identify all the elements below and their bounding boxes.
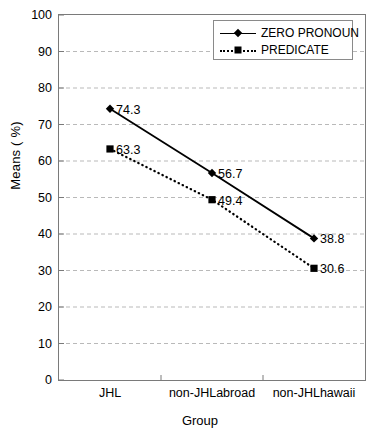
plot-canvas [59,15,365,380]
square-marker-icon [235,46,242,53]
x-axis-title: Group [182,413,218,428]
plot-area [58,14,366,381]
data-label: 74.3 [116,103,140,117]
y-tick-label: 90 [18,46,52,58]
legend-item-zero-pronoun: ZERO PRONOUN [218,24,348,41]
square-marker-icon [208,196,215,203]
diamond-marker-icon [234,28,242,36]
data-label: 56.7 [218,167,242,181]
x-axis-title-wrap: Group [0,413,380,428]
legend-label-predicate: PREDICATE [261,43,329,57]
data-label: 63.3 [116,143,140,157]
square-marker-icon [310,265,317,272]
data-label: 38.8 [320,232,344,246]
chart-figure: Means ( %) 1009080706050403020100 JHLnon… [0,0,380,444]
y-tick-label: 20 [18,301,52,313]
data-label: 30.6 [320,262,344,276]
series-line-predicate [110,149,314,268]
x-tick-label: JHL [99,386,121,400]
y-tick-label: 60 [18,155,52,167]
y-tick-label: 10 [18,338,52,350]
y-tick-label: 30 [18,265,52,277]
y-tick-label: 80 [18,82,52,94]
y-tick-label: 70 [18,119,52,131]
chart-legend: ZERO PRONOUN PREDICATE [213,20,353,60]
square-marker-icon [106,145,113,152]
y-tick-label: 40 [18,228,52,240]
x-tick-label: non-JHLhawaii [273,386,356,400]
data-label: 49.4 [218,194,242,208]
y-tick-label: 100 [18,9,52,21]
diamond-marker-icon [106,105,114,113]
x-tick-label: non-JHLabroad [169,386,255,400]
legend-label-zero-pronoun: ZERO PRONOUN [261,26,359,40]
legend-swatch-dotted-square [218,43,258,57]
y-tick-label: 50 [18,192,52,204]
legend-item-predicate: PREDICATE [218,41,348,58]
legend-swatch-solid-diamond [218,26,258,40]
y-axis-tick-labels: 1009080706050403020100 [12,0,52,444]
y-tick-label: 0 [18,374,52,386]
